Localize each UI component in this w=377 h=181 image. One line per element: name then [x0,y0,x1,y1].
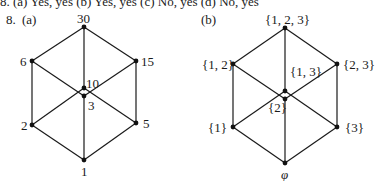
node-label-set-1: {1} [208,121,227,134]
node-label-set-3: {3} [345,121,364,134]
node-label-10: 10 [86,77,99,90]
node-label-3: 3 [88,99,95,112]
node-label-1: 1 [81,165,88,178]
node-label-6: 6 [20,55,27,68]
node-label-set-12: {1, 2} [202,58,234,71]
node-label-15: 15 [141,55,154,68]
node-label-set-123: {1, 2, 3} [265,13,310,26]
node-label-empty-set: φ [281,168,288,181]
node-label-set-23: {2, 3} [343,58,375,71]
hasse-diagrams [0,0,377,181]
node-label-set-2: {2} [268,101,287,114]
node-label-30: 30 [77,12,90,25]
node-label-set-13: {1, 3} [290,65,322,78]
hasse-diagram-b [233,28,337,163]
hasse-diagram-a [32,27,136,160]
node-label-5: 5 [143,117,150,130]
node-label-2: 2 [21,119,28,132]
